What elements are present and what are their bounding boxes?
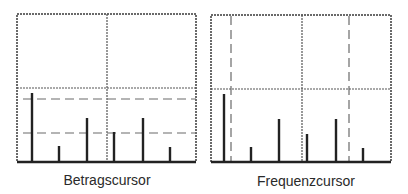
frequenz-screen <box>0 0 408 170</box>
frequenz-panel: Frequenzcursor <box>0 0 408 194</box>
frequenz-grid <box>211 15 391 162</box>
frequenz-caption: Frequenzcursor <box>216 173 396 189</box>
frequenz-spikes <box>224 94 363 162</box>
